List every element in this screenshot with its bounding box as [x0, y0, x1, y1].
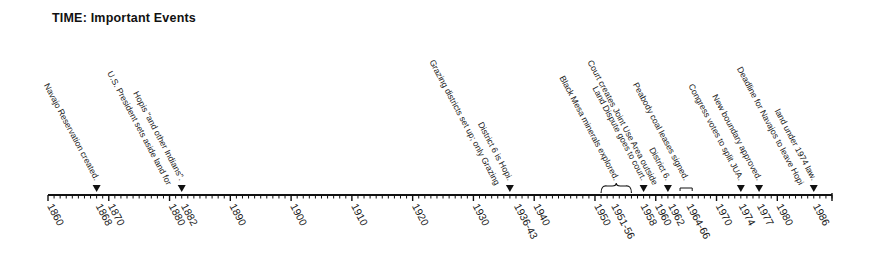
- event-label: U.S. President sets aside land for: [105, 69, 174, 186]
- event-marker-bracket: [680, 188, 692, 191]
- event-label: Deadline for Navajos to leave Hopi: [735, 65, 806, 187]
- event: Grazing districts set up; only GrazingDi…: [427, 58, 515, 192]
- tick-label: 1986: [811, 201, 833, 227]
- event: U.S. President sets aside land forHopis …: [105, 69, 187, 192]
- tick-label: 1974: [737, 201, 759, 227]
- event-marker-triangle: [810, 185, 818, 192]
- tick-label: 1890: [228, 201, 250, 227]
- event-marker-triangle: [737, 185, 745, 192]
- event-marker-triangle: [664, 185, 672, 192]
- event-label: Navajo Reservation created.: [42, 81, 102, 181]
- event-marker-triangle: [506, 185, 514, 192]
- events: Navajo Reservation created.U.S. Presiden…: [42, 58, 819, 193]
- tick-label: 1930: [471, 201, 493, 227]
- event-marker-triangle: [640, 185, 648, 192]
- event-marker-triangle: [755, 185, 763, 192]
- tick-label: 1900: [288, 201, 310, 227]
- event-marker-triangle: [178, 185, 186, 192]
- timeline-chart: 1860186818701880188218901900191019201930…: [0, 0, 878, 255]
- tick-labels: 1860186818701880188218901900191019201930…: [45, 201, 832, 241]
- tick-label: 1980: [775, 201, 797, 227]
- tick-label: 1970: [714, 201, 736, 227]
- tick-label: 1910: [349, 201, 371, 227]
- event: Deadline for Navajos to leave Hopiland u…: [735, 65, 819, 192]
- timeline-axis: [48, 193, 832, 201]
- event-label: Court creates Joint Use Area outside: [586, 58, 661, 186]
- event: Navajo Reservation created.: [42, 81, 102, 192]
- tick-label: 1964-66: [685, 201, 714, 241]
- event-marker-triangle: [93, 185, 101, 192]
- tick-label: 1860: [45, 201, 67, 227]
- tick-label: 1920: [410, 201, 432, 227]
- tick-label: 1977: [755, 201, 777, 227]
- event-label: Grazing districts set up; only Grazing: [427, 58, 502, 187]
- event-marker-brace: [601, 183, 631, 193]
